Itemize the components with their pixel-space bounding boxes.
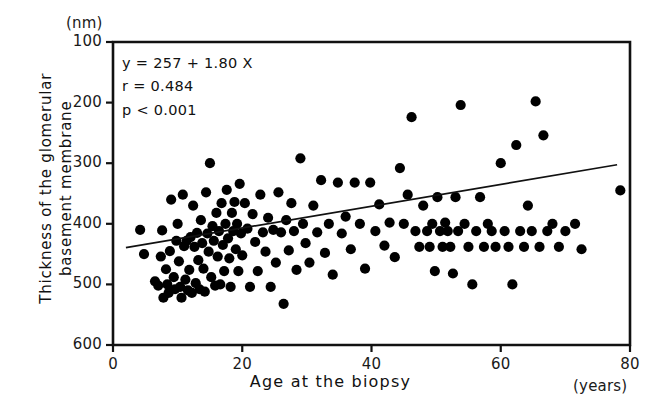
y-tick-label: 500: [58, 274, 102, 292]
y-tick-label: 300: [58, 153, 102, 171]
y-tick-label: 100: [58, 32, 102, 50]
regression-line: [126, 165, 617, 248]
x-tick-label: 0: [93, 355, 133, 373]
pvalue-text: p < 0.001: [122, 99, 253, 122]
scatter-plot-figure: (nm) (years) y = 257 + 1.80 X r = 0.484 …: [0, 0, 661, 410]
statistics-annotation: y = 257 + 1.80 X r = 0.484 p < 0.001: [122, 52, 253, 122]
y-tick-label: 400: [58, 214, 102, 232]
correlation-text: r = 0.484: [122, 75, 253, 98]
y-tick-label: 200: [58, 93, 102, 111]
x-tick-label: 40: [352, 355, 392, 373]
y-tick-label: 600: [58, 335, 102, 353]
x-tick-label: 20: [222, 355, 262, 373]
x-axis-title: Age at the biopsy: [0, 372, 661, 391]
y-axis-title-line2: basement membrane: [56, 28, 76, 348]
y-axis-title-line1: Thickness of the glomerular: [36, 28, 56, 348]
data-points: [135, 96, 625, 309]
y-axis-title: Thickness of the glomerular basement mem…: [36, 28, 77, 348]
x-tick-label: 60: [481, 355, 521, 373]
x-tick-label: 80: [610, 355, 650, 373]
regression-equation-text: y = 257 + 1.80 X: [122, 52, 253, 75]
